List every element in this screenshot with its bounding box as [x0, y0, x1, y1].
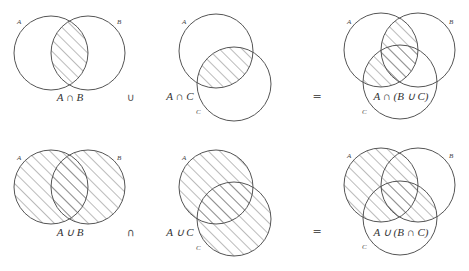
shaded-region [14, 150, 125, 224]
panel-a-intersect-b: A B A ∩ B [14, 16, 125, 103]
expression-label: A ∩ B [56, 91, 84, 103]
expression-label: A ∪ C [165, 226, 194, 238]
panel-a-union-b-intersect-c: A B C A ∪ (B ∩ C) [344, 148, 455, 255]
set-label-a: A [16, 18, 22, 26]
set-label-a: A [346, 18, 352, 26]
set-label-b: B [449, 152, 454, 160]
venn-diagram-svg: A B A ∩ B ∪ A C A ∩ C = A B C A ∩ (B ∪ C… [0, 0, 469, 271]
expression-label: A ∪ (B ∩ C) [373, 226, 429, 239]
panel-a-intersect-b-union-c: A B C A ∩ (B ∪ C) [344, 13, 455, 119]
union-operator: ∪ [127, 91, 135, 104]
shaded-region [179, 150, 271, 256]
set-label-b: B [449, 18, 454, 26]
set-label-a: A [16, 154, 22, 162]
expression-label: A ∩ C [165, 90, 194, 102]
equals-sign: = [312, 225, 321, 238]
expression-label: A ∩ (B ∪ C) [373, 90, 429, 103]
set-label-a: A [346, 152, 352, 160]
venn-diagram-figure: A B A ∩ B ∪ A C A ∩ C = A B C A ∩ (B ∪ C… [0, 0, 469, 271]
set-label-b: B [117, 18, 122, 26]
set-label-b: B [117, 154, 122, 162]
shaded-region [344, 148, 437, 255]
panel-a-union-b: A B A ∪ B [14, 150, 125, 238]
intersection-operator: ∩ [127, 226, 135, 239]
set-label-c: C [362, 243, 367, 251]
shaded-region [363, 13, 455, 119]
expression-label: A ∪ B [56, 226, 84, 238]
panel-a-union-c: A C A ∪ C [165, 150, 271, 256]
set-label-c: C [362, 108, 367, 116]
equals-sign: = [312, 90, 321, 103]
panel-a-intersect-c: A C A ∩ C [165, 14, 271, 121]
set-label-a: A [181, 18, 187, 26]
set-label-a: A [181, 154, 187, 162]
set-label-c: C [196, 108, 201, 116]
set-label-c: C [196, 244, 201, 252]
